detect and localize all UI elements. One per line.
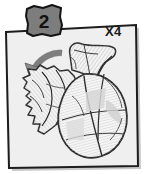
main-round-body <box>58 74 127 158</box>
step-number-badge: 2 <box>24 4 64 38</box>
step-number-text: 2 <box>39 12 50 31</box>
step-illustration <box>0 0 146 174</box>
quantity-label: X4 <box>105 24 122 39</box>
instruction-step-image: 2 X4 <box>0 0 146 174</box>
